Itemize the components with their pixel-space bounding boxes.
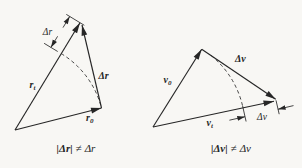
dimension-arrow-lower xyxy=(51,36,58,47)
dimension-tick-right xyxy=(276,100,279,114)
right-caption: |Δv|≠Δv xyxy=(211,142,251,154)
r-t-vector-arrow xyxy=(15,23,80,130)
r-0-label: r0 xyxy=(86,112,94,125)
r-t-label: rt xyxy=(30,79,37,92)
dimension-arrow-left xyxy=(229,117,245,121)
delta-v-vector-label: Δv xyxy=(234,53,246,64)
delta-v-scalar-label: Δv xyxy=(256,112,268,122)
v-0-vector-arrow xyxy=(153,49,202,127)
dimension-tick-upper xyxy=(66,14,84,25)
delta-r-vector-arrow xyxy=(82,25,102,108)
velocity-triangle-diagram: Δv v0 vt Δv |Δv|≠Δv xyxy=(153,49,294,153)
vector-diagrams-svg: Δr rt r0 Δr |Δr|≠Δr Δv v0 vt Δv |Δ xyxy=(0,0,302,168)
v-t-vector-arrow xyxy=(153,101,274,127)
dimension-tick-left xyxy=(243,106,247,122)
dimension-arrow-upper xyxy=(63,17,70,28)
delta-r-scalar-label: Δr xyxy=(42,27,53,37)
left-caption: |Δr|≠Δr xyxy=(57,142,97,154)
v-t-label: vt xyxy=(207,117,214,130)
delta-r-vector-label: Δr xyxy=(98,70,109,81)
v-0-label: v0 xyxy=(164,74,172,87)
position-triangle-diagram: Δr rt r0 Δr |Δr|≠Δr xyxy=(15,14,109,154)
dimension-arrow-right xyxy=(278,106,294,110)
figure-canvas: Δr rt r0 Δr |Δr|≠Δr Δv v0 vt Δv |Δ xyxy=(0,0,302,168)
